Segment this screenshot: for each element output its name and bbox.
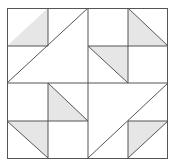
quilt-block-diagram: [0, 0, 176, 163]
